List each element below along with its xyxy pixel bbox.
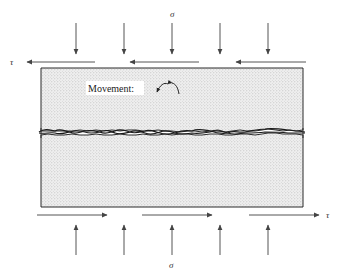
- normal-stress-arrows-bottom: [76, 225, 268, 255]
- shear-stress-label-top: τ: [10, 57, 14, 67]
- diagram-container: σ τ Movement:: [0, 0, 338, 278]
- normal-stress-label-top: σ: [170, 9, 175, 19]
- normal-stress-arrows-top: [76, 23, 268, 54]
- movement-label: Movement:: [88, 83, 134, 94]
- upper-rock-block: [41, 68, 303, 132]
- lower-rock-block: [41, 133, 303, 207]
- normal-stress-label-bottom: σ: [169, 260, 174, 270]
- shear-stress-label-bottom: τ: [326, 210, 330, 220]
- shear-joint-diagram: σ τ Movement:: [0, 0, 338, 278]
